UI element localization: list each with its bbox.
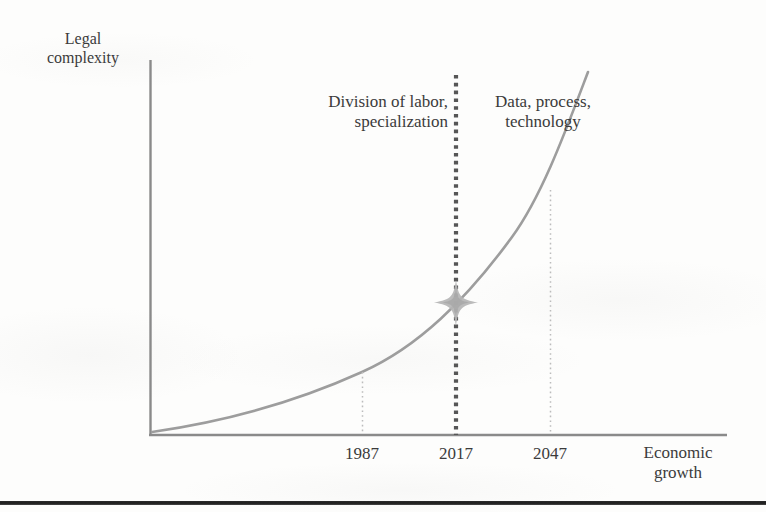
page-bottom-rule (0, 501, 766, 505)
annotation-right-era: Data, process, technology (463, 92, 623, 132)
x-tick-label-1987: 1987 (322, 444, 402, 464)
chart-canvas (0, 0, 766, 512)
x-axis-title: Economic growth (613, 443, 743, 483)
x-tick-label-2047: 2047 (510, 444, 590, 464)
y-axis-title: Legal complexity (24, 30, 142, 68)
annotation-left-era: Division of labor, specialization (260, 92, 448, 132)
x-tick-label-2017: 2017 (416, 444, 496, 464)
figure-page: Legal complexity Division of labor, spec… (0, 0, 766, 512)
